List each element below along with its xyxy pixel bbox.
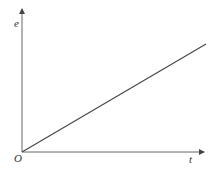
x-axis-label: t bbox=[189, 153, 192, 165]
y-axis-label: e bbox=[14, 17, 19, 29]
graph-svg bbox=[0, 0, 223, 172]
diagram: e t O bbox=[0, 0, 223, 172]
linear-line bbox=[22, 44, 206, 152]
origin-label: O bbox=[14, 152, 22, 164]
